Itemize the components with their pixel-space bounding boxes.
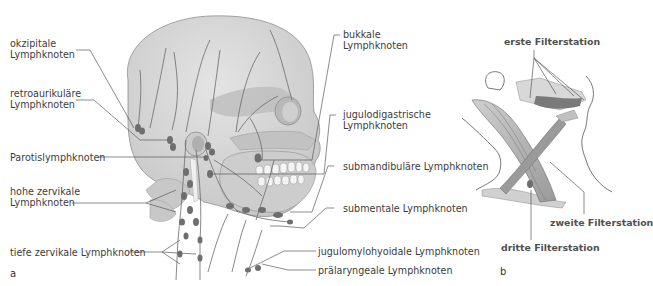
label-line: Lymphknoten [10,49,75,60]
panel-letter-a: a [10,268,16,279]
label-dritte-filterstation: dritte Filterstation [501,242,600,253]
label-jugulomylohyoidale-lymphknoten: jugulomylohyoidale Lymphknoten [318,246,480,257]
neck-illustration [462,72,612,208]
skull-illustration [127,16,320,222]
label-line: hohe zervikale [10,186,80,197]
label-bukkale-lymphknoten: bukkale Lymphknoten [343,29,408,51]
label-submandibulaere-lymphknoten: submandibuläre Lymphknoten [343,161,489,172]
label-line: Lymphknoten [10,99,81,110]
label-okzipitale-lymphknoten: okzipitale Lymphknoten [10,38,75,60]
label-line: Lymphknoten [10,197,80,208]
label-erste-filterstation: erste Filterstation [504,36,600,47]
label-praelaryngeale-lymphknoten: prälaryngeale Lymphknoten [318,265,453,276]
label-hohe-zervikale-lymphknoten: hohe zervikale Lymphknoten [10,186,80,208]
label-submentale-lymphknoten: submentale Lymphknoten [343,203,468,214]
label-retroaurikulaere-lymphknoten: retroaurikuläre Lymphknoten [10,88,81,110]
label-tiefe-zervikale-lymphknoten: tiefe zervikale Lymphknoten [10,247,146,258]
label-jugulodigastrische-lymphknoten: jugulodigastrische Lymphknoten [343,109,431,131]
label-line: bukkale [343,29,408,40]
label-parotislymphknoten: Parotislymphknoten [10,152,105,163]
label-zweite-filterstation: zweite Filterstation [550,217,653,228]
label-line: Lymphknoten [343,120,431,131]
label-line: okzipitale [10,38,75,49]
panel-letter-b: b [500,266,506,277]
label-line: Lymphknoten [343,40,408,51]
label-line: jugulodigastrische [343,109,431,120]
label-line: retroaurikuläre [10,88,81,99]
